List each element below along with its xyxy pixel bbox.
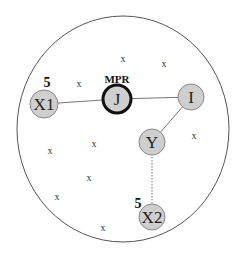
other-node-marker: x [121, 53, 126, 64]
node-x1: X1 [30, 90, 58, 118]
node-label: X1 [34, 95, 55, 114]
node-label: I [188, 88, 194, 107]
other-node-marker: x [55, 191, 60, 202]
other-node-marker: x [48, 145, 53, 156]
hop-count-label: 5 [135, 196, 142, 211]
node-label: J [114, 90, 121, 109]
mpr-label: MPR [104, 73, 130, 85]
other-node-marker: x [92, 138, 97, 149]
node-label: Y [146, 133, 158, 152]
node-label: X2 [142, 208, 163, 227]
edges-layer [44, 97, 191, 217]
other-node-marker: x [87, 172, 92, 183]
other-node-marker: x [192, 130, 197, 141]
node-j: J [103, 85, 131, 113]
transmission-range-boundary [17, 16, 229, 242]
other-node-marker: x [77, 78, 82, 89]
hop-count-label: 5 [44, 75, 51, 90]
nodes-layer: X1JIYX2 [30, 84, 204, 230]
node-i: I [178, 84, 204, 110]
node-y: Y [139, 129, 165, 155]
node-x2: X2 [139, 204, 165, 230]
other-node-marker: x [101, 222, 106, 233]
network-diagram: xxxxxxxxx X1JIYX2 5MPR5 [0, 0, 247, 258]
other-node-marker: x [162, 58, 167, 69]
